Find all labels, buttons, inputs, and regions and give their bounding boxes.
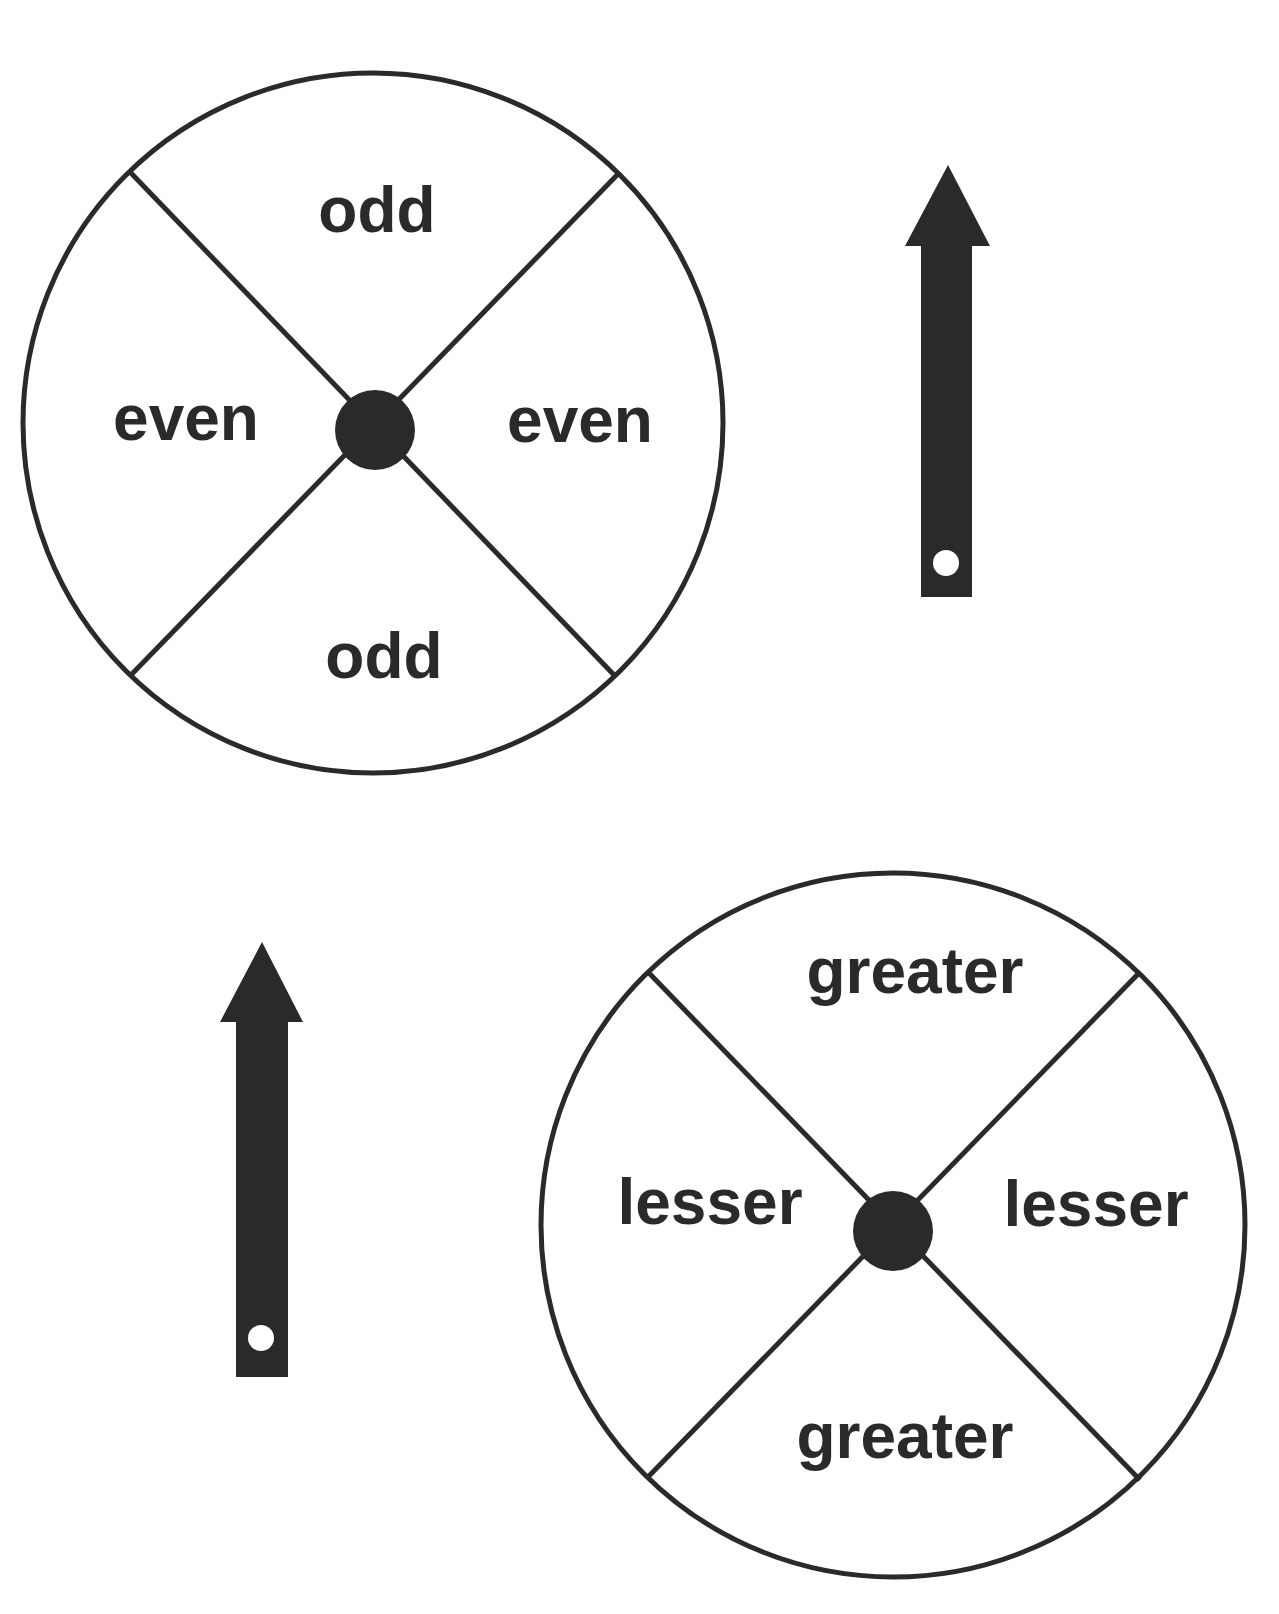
section-label-left: even [113,382,259,454]
section-label-right: even [507,384,653,456]
arrow-pointer-2[interactable] [220,942,303,1377]
pivot-hole [933,550,959,576]
spinner-center-dot [335,390,415,470]
spinner-worksheet: odd even even odd greater lesser lesser … [0,0,1279,1614]
greater-lesser-spinner: greater lesser lesser greater [541,873,1245,1577]
section-label-right: lesser [1003,1168,1188,1240]
section-label-top: odd [318,174,435,246]
arrow-pointer-1[interactable] [905,165,990,597]
arrow-up-icon [220,942,303,1377]
section-label-bottom: odd [325,620,442,692]
section-label-left: lesser [617,1166,802,1238]
odd-even-spinner: odd even even odd [23,73,723,773]
section-label-top: greater [807,935,1024,1007]
arrow-up-icon [905,165,990,597]
section-label-bottom: greater [797,1400,1014,1472]
pivot-hole [248,1325,274,1351]
spinner-center-dot [853,1191,933,1271]
